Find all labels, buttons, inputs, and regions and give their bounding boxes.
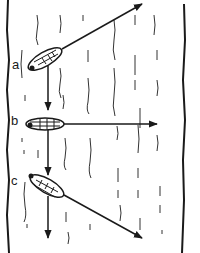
right-riverbank [182,4,185,253]
label-a: a [12,58,19,71]
left-riverbank [7,0,9,253]
river-diagram [0,0,200,253]
label-b: b [11,114,18,127]
boat-a-heading-arrow [62,4,142,49]
boat-c-heading-arrow [64,195,142,238]
boat-b [26,118,157,175]
label-c: c [11,174,18,187]
boat-a [25,4,142,110]
boat-c [27,170,142,238]
